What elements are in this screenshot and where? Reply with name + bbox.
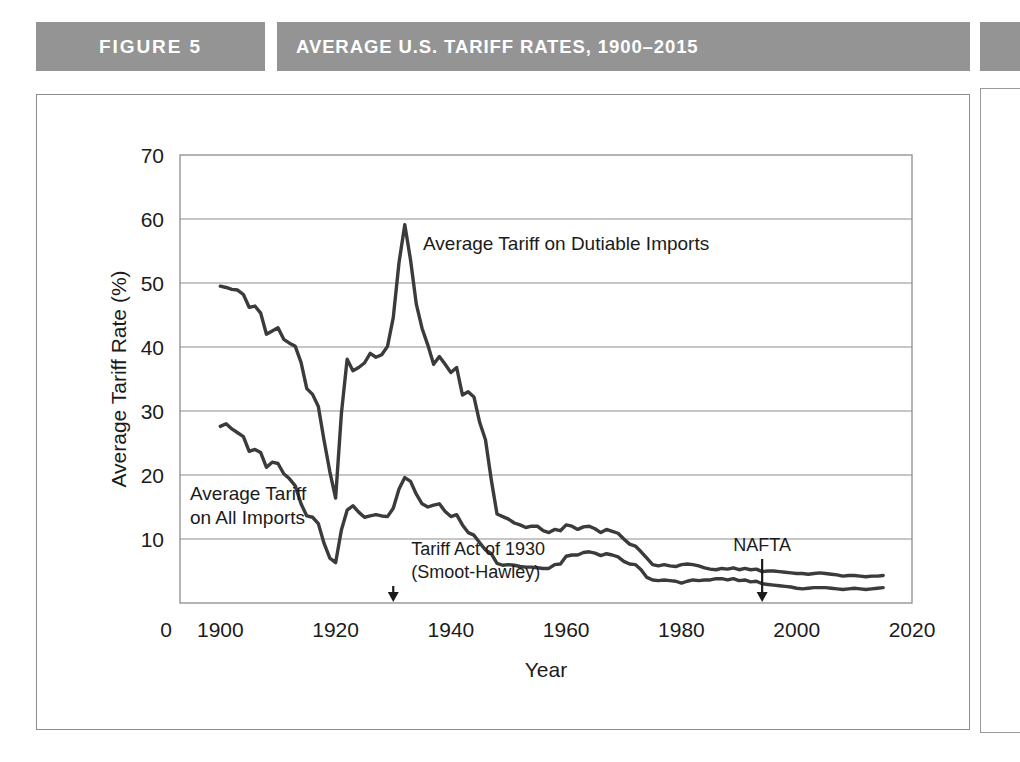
- y-axis-tick-labels: 10203040506070: [141, 144, 164, 551]
- y-axis-title: Average Tariff Rate (%): [107, 270, 130, 487]
- x-axis-origin-label: 0: [160, 618, 172, 641]
- y-axis-tick-label: 10: [141, 528, 164, 551]
- x-axis-tick-label: 1980: [658, 618, 705, 641]
- x-axis-tick-label: 1960: [543, 618, 590, 641]
- y-axis-tick-label: 20: [141, 464, 164, 487]
- y-axis-tick-label: 30: [141, 400, 164, 423]
- x-axis-tick-label: 2000: [773, 618, 820, 641]
- x-axis-tick-label: 2020: [889, 618, 936, 641]
- annotation-arrow-head: [388, 592, 399, 602]
- y-axis-tick-label: 50: [141, 272, 164, 295]
- x-axis-tick-label: 1900: [197, 618, 244, 641]
- series-line-all-imports: [220, 424, 883, 590]
- series-label-all-imports-line1: Average Tariff: [190, 483, 307, 504]
- annotation-text: (Smoot-Hawley): [411, 562, 540, 582]
- x-axis-title: Year: [525, 658, 567, 681]
- series-label-dutiable-imports: Average Tariff on Dutiable Imports: [423, 233, 709, 254]
- plot-area-border: [180, 155, 912, 603]
- annotation-arrow-head: [757, 592, 768, 602]
- x-axis-tick-labels: 1900192019401960198020002020: [197, 618, 935, 641]
- x-axis-tick-label: 1920: [312, 618, 359, 641]
- series-label-all-imports-line2: on All Imports: [190, 507, 305, 528]
- y-axis-tick-label: 70: [141, 144, 164, 167]
- y-axis-tick-label: 60: [141, 208, 164, 231]
- x-axis-tick-label: 1940: [428, 618, 475, 641]
- annotation-text: Tariff Act of 1930: [411, 539, 545, 559]
- annotation-text: NAFTA: [733, 535, 791, 555]
- y-axis-tick-label: 40: [141, 336, 164, 359]
